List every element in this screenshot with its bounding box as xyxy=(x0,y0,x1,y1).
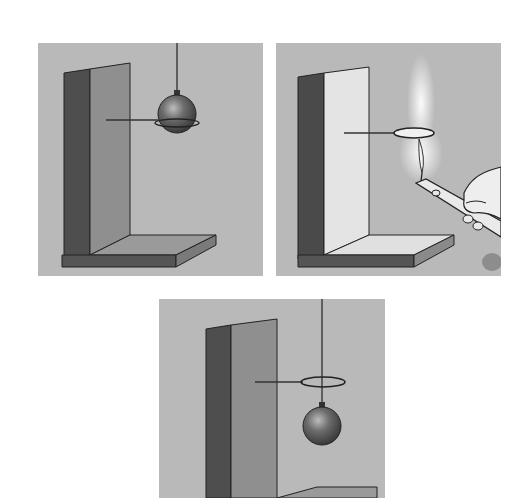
board-face xyxy=(90,63,130,255)
hand xyxy=(464,167,501,219)
ball xyxy=(303,407,341,445)
ring xyxy=(394,128,434,138)
panel-ball-through-ring xyxy=(159,299,385,498)
stand-with-candle-illustration xyxy=(276,43,501,276)
ring xyxy=(301,377,345,387)
stand-with-ball-illustration xyxy=(38,43,263,276)
board-side xyxy=(64,69,90,259)
stand-with-ball-through-ring-illustration xyxy=(159,299,385,498)
base-front xyxy=(62,255,176,267)
panel-heating-ring xyxy=(276,43,501,276)
panel-ball-on-ring xyxy=(38,43,263,276)
